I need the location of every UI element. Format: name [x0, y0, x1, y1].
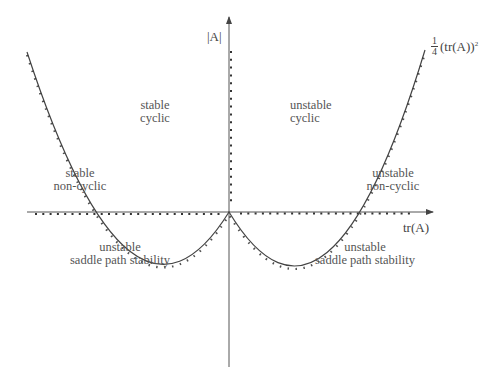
formula-exponent: 2	[475, 40, 479, 48]
formula-expression: (tr(A))	[440, 39, 475, 55]
region-saddle-left: unstable saddle path stability	[55, 241, 185, 267]
y-axis-label: |A|	[207, 29, 222, 45]
region-unstable-cyclic: unstable cyclic	[290, 99, 332, 125]
region-saddle-right: unstable saddle path stability	[300, 241, 430, 267]
region-unstable-non-cyclic: unstable non-cyclic	[353, 167, 433, 193]
region-stable-cyclic: stable cyclic	[125, 99, 185, 125]
curve-formula-label: 1 4 (tr(A))2	[431, 36, 478, 57]
parabola-curve	[27, 50, 425, 266]
x-axis-label: tr(A)	[403, 220, 429, 236]
fraction: 1 4	[431, 36, 438, 57]
region-stable-non-cyclic: stable non-cyclic	[45, 167, 115, 193]
parabola-tick-marks	[27, 53, 425, 269]
